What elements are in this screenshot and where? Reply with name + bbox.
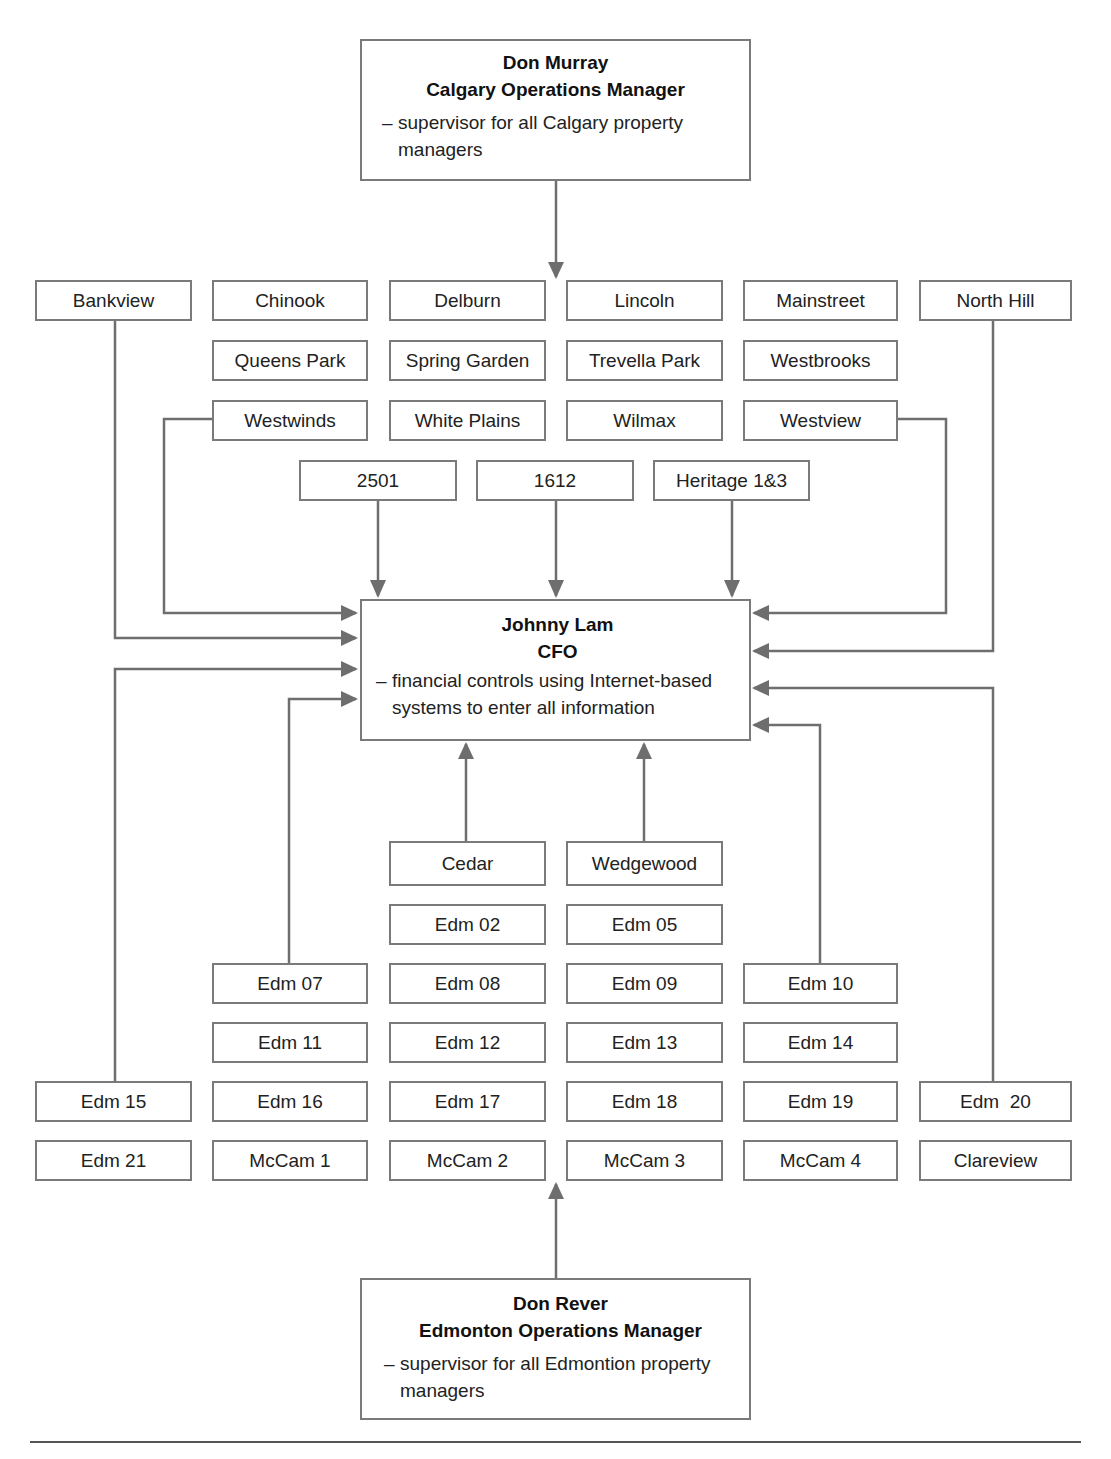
property-lincoln: Lincoln	[566, 280, 723, 321]
property-edm-11: Edm 11	[212, 1022, 368, 1063]
calgary-manager-role: Calgary Operations Manager	[382, 76, 729, 103]
dash-bullet: –	[384, 1350, 400, 1404]
edmonton-manager-role: Edmonton Operations Manager	[384, 1317, 737, 1344]
property-north-hill: North Hill	[919, 280, 1072, 321]
property-mccam-2: McCam 2	[389, 1140, 546, 1181]
property-edm-15: Edm 15	[35, 1081, 192, 1122]
property-edm-17: Edm 17	[389, 1081, 546, 1122]
property-edm-16: Edm 16	[212, 1081, 368, 1122]
property-spring-garden: Spring Garden	[389, 340, 546, 381]
property-westbrooks: Westbrooks	[743, 340, 898, 381]
property-edm-10: Edm 10	[743, 963, 898, 1004]
property-wedgewood: Wedgewood	[566, 841, 723, 886]
property-mainstreet: Mainstreet	[743, 280, 898, 321]
property-westwinds: Westwinds	[212, 400, 368, 441]
property-mccam-3: McCam 3	[566, 1140, 723, 1181]
property-edm-02: Edm 02	[389, 904, 546, 945]
property-mccam-4: McCam 4	[743, 1140, 898, 1181]
property-edm-21: Edm 21	[35, 1140, 192, 1181]
edmonton-manager-description-text: supervisor for all Edmontion property ma…	[400, 1350, 737, 1404]
calgary-manager-box: Don Murray Calgary Operations Manager – …	[360, 39, 751, 181]
property-edm-13: Edm 13	[566, 1022, 723, 1063]
property-clareview: Clareview	[919, 1140, 1072, 1181]
property-trevella-park: Trevella Park	[566, 340, 723, 381]
edmonton-manager-name: Don Rever	[384, 1290, 737, 1317]
property-heritage-1-3: Heritage 1&3	[653, 460, 810, 501]
property-edm-08: Edm 08	[389, 963, 546, 1004]
property-edm-14: Edm 14	[743, 1022, 898, 1063]
property-edm-09: Edm 09	[566, 963, 723, 1004]
cfo-role: CFO	[376, 638, 739, 665]
edmonton-manager-description: – supervisor for all Edmontion property …	[384, 1350, 737, 1404]
footer-divider	[30, 1441, 1081, 1443]
dash-bullet: –	[376, 667, 392, 721]
property-2501: 2501	[299, 460, 457, 501]
property-mccam-1: McCam 1	[212, 1140, 368, 1181]
property-edm-12: Edm 12	[389, 1022, 546, 1063]
cfo-box: Johnny Lam CFO – financial controls usin…	[360, 599, 751, 741]
property-1612: 1612	[476, 460, 634, 501]
property-chinook: Chinook	[212, 280, 368, 321]
property-edm-07: Edm 07	[212, 963, 368, 1004]
property-queens-park: Queens Park	[212, 340, 368, 381]
property-cedar: Cedar	[389, 841, 546, 886]
dash-bullet: –	[382, 109, 398, 163]
edmonton-manager-box: Don Rever Edmonton Operations Manager – …	[360, 1278, 751, 1420]
property-white-plains: White Plains	[389, 400, 546, 441]
property-edm-20: Edm 20	[919, 1081, 1072, 1122]
cfo-name: Johnny Lam	[376, 611, 739, 638]
cfo-description-text: financial controls using Internet-based …	[392, 667, 739, 721]
property-wilmax: Wilmax	[566, 400, 723, 441]
property-edm-05: Edm 05	[566, 904, 723, 945]
property-edm-18: Edm 18	[566, 1081, 723, 1122]
property-bankview: Bankview	[35, 280, 192, 321]
property-delburn: Delburn	[389, 280, 546, 321]
property-westview: Westview	[743, 400, 898, 441]
calgary-manager-description-text: supervisor for all Calgary property mana…	[398, 109, 729, 163]
calgary-manager-name: Don Murray	[382, 49, 729, 76]
calgary-manager-description: – supervisor for all Calgary property ma…	[382, 109, 729, 163]
cfo-description: – financial controls using Internet-base…	[376, 667, 739, 721]
property-edm-19: Edm 19	[743, 1081, 898, 1122]
